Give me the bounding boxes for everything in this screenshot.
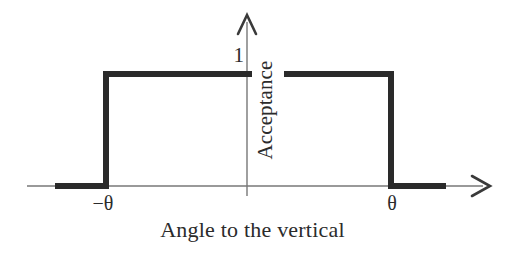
x-tick-label-theta: θ — [374, 193, 410, 213]
y-tick-label-one: 1 — [228, 45, 244, 66]
x-axis-title: Angle to the vertical — [0, 219, 505, 241]
x-tick-label-negative-theta: −θ — [83, 193, 123, 213]
y-axis-title: Acceptance — [255, 20, 281, 200]
acceptance-step-function-figure: 1 −θ θ Acceptance Angle to the vertical — [0, 0, 505, 255]
acceptance-step-curve — [55, 71, 446, 189]
